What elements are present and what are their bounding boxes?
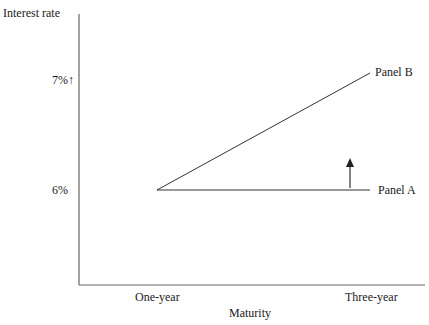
- panel-b-line: [157, 73, 370, 190]
- panel-b-label: Panel B: [375, 65, 413, 79]
- x-axis-label: Maturity: [229, 306, 271, 320]
- yield-curve-diagram: [0, 0, 429, 325]
- y-tick-7: 7%↑: [52, 73, 74, 87]
- up-arrow-icon: [346, 158, 354, 188]
- x-cat-one-year: One-year: [135, 290, 180, 304]
- y-axis-label: Interest rate: [3, 6, 60, 20]
- x-cat-three-year: Three-year: [345, 290, 398, 304]
- panel-a-label: Panel A: [378, 183, 416, 197]
- y-tick-6: 6%: [52, 183, 68, 197]
